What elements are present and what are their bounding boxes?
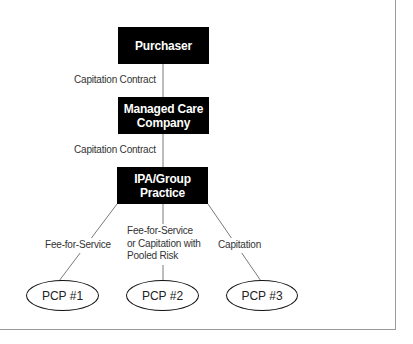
edge-label-purchaser-mco: Capitation Contract (74, 74, 156, 87)
pcp3-label: PCP #3 (241, 289, 282, 303)
purchaser-label: Purchaser (135, 39, 192, 53)
pcp1-node: PCP #1 (26, 280, 99, 311)
pcp3-node: PCP #3 (226, 280, 298, 311)
ipa-label-line2: Practice (140, 186, 185, 200)
pcp2-node: PCP #2 (126, 280, 199, 311)
managed-care-label-line1: Managed Care (124, 102, 204, 116)
edge-label-ipa-pcp2-line3: Pooled Risk (127, 250, 201, 263)
managed-care-label-line2: Company (137, 116, 190, 130)
ipa-group-practice-node: IPA/Group Practice (117, 167, 208, 204)
edge-label-ipa-pcp1: Fee-for-Service (45, 238, 111, 253)
edge-label-ipa-pcp2-line1: Fee-for-Service (127, 225, 201, 238)
purchaser-node: Purchaser (118, 27, 209, 64)
ipa-label-line1: IPA/Group (134, 172, 191, 186)
edge-label-ipa-pcp3: Capitation (217, 238, 262, 253)
pcp2-label: PCP #2 (142, 289, 183, 303)
edge-label-ipa-pcp2-line2: or Capitation with (127, 238, 201, 251)
edge-label-ipa-pcp2: Fee-for-Service or Capitation with Poole… (126, 224, 202, 265)
pcp1-label: PCP #1 (42, 289, 83, 303)
edge-label-mco-ipa: Capitation Contract (74, 144, 156, 157)
managed-care-company-node: Managed Care Company (118, 97, 209, 134)
